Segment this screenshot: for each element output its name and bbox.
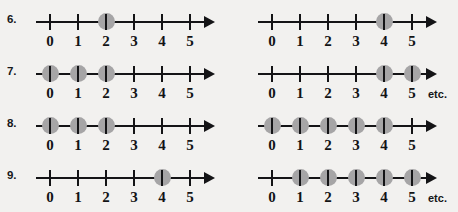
tick-mark bbox=[133, 66, 135, 82]
arrow-right-icon bbox=[426, 16, 437, 28]
tick-label: 2 bbox=[317, 33, 339, 50]
number-line-right: 012345etc. bbox=[258, 166, 450, 212]
tick-label: 4 bbox=[373, 137, 395, 154]
tick-mark bbox=[411, 66, 413, 82]
tick-label: 0 bbox=[261, 137, 283, 154]
tick-mark bbox=[355, 170, 357, 186]
number-line-right: 012345etc. bbox=[258, 62, 450, 110]
tick-mark bbox=[189, 14, 191, 30]
tick-label: 5 bbox=[179, 33, 201, 50]
tick-label: 2 bbox=[317, 85, 339, 102]
tick-mark bbox=[77, 66, 79, 82]
arrow-right-icon bbox=[426, 68, 437, 80]
number-line-left: 012345 bbox=[36, 114, 228, 162]
tick-mark bbox=[327, 118, 329, 134]
tick-mark bbox=[327, 14, 329, 30]
tick-mark bbox=[355, 118, 357, 134]
tick-label: 4 bbox=[151, 189, 173, 206]
tick-mark bbox=[49, 14, 51, 30]
tick-label: 2 bbox=[317, 137, 339, 154]
tick-label: 4 bbox=[373, 33, 395, 50]
etc-label: etc. bbox=[428, 192, 447, 204]
tick-label: 4 bbox=[151, 137, 173, 154]
tick-label: 3 bbox=[345, 137, 367, 154]
tick-label: 1 bbox=[67, 85, 89, 102]
tick-label: 0 bbox=[39, 33, 61, 50]
tick-label: 0 bbox=[39, 189, 61, 206]
arrow-right-icon bbox=[204, 68, 215, 80]
arrow-right-icon bbox=[204, 172, 215, 184]
tick-label: 1 bbox=[289, 137, 311, 154]
tick-label: 5 bbox=[179, 189, 201, 206]
problem-row: 6.012345012345 bbox=[0, 10, 458, 63]
problem-row: 8.012345012345 bbox=[0, 114, 458, 167]
axis-line bbox=[258, 21, 430, 23]
tick-mark bbox=[383, 14, 385, 30]
tick-mark bbox=[189, 118, 191, 134]
tick-label: 2 bbox=[95, 137, 117, 154]
tick-mark bbox=[355, 14, 357, 30]
tick-label: 1 bbox=[67, 137, 89, 154]
tick-mark bbox=[77, 118, 79, 134]
tick-label: 3 bbox=[123, 137, 145, 154]
tick-label: 3 bbox=[345, 85, 367, 102]
tick-mark bbox=[105, 66, 107, 82]
tick-mark bbox=[105, 14, 107, 30]
tick-mark bbox=[133, 118, 135, 134]
tick-label: 2 bbox=[95, 33, 117, 50]
tick-label: 2 bbox=[95, 85, 117, 102]
tick-mark bbox=[49, 170, 51, 186]
tick-label: 3 bbox=[123, 33, 145, 50]
tick-label: 3 bbox=[345, 33, 367, 50]
tick-label: 1 bbox=[289, 33, 311, 50]
arrow-right-icon bbox=[204, 16, 215, 28]
tick-label: 0 bbox=[261, 85, 283, 102]
tick-mark bbox=[189, 66, 191, 82]
tick-label: 1 bbox=[67, 33, 89, 50]
tick-mark bbox=[327, 66, 329, 82]
tick-mark bbox=[49, 66, 51, 82]
tick-label: 0 bbox=[39, 137, 61, 154]
tick-label: 5 bbox=[179, 137, 201, 154]
tick-mark bbox=[271, 118, 273, 134]
tick-label: 5 bbox=[401, 33, 423, 50]
tick-mark bbox=[299, 170, 301, 186]
axis-line bbox=[258, 125, 430, 127]
tick-label: 2 bbox=[317, 189, 339, 206]
tick-mark bbox=[271, 170, 273, 186]
tick-label: 4 bbox=[373, 85, 395, 102]
problem-row: 7.012345012345etc. bbox=[0, 62, 458, 115]
tick-label: 4 bbox=[151, 85, 173, 102]
tick-mark bbox=[77, 14, 79, 30]
problem-row: 9.012345012345etc. bbox=[0, 166, 458, 212]
tick-mark bbox=[271, 14, 273, 30]
tick-mark bbox=[49, 118, 51, 134]
tick-mark bbox=[411, 14, 413, 30]
problem-number-label: 9. bbox=[7, 169, 29, 181]
tick-mark bbox=[299, 66, 301, 82]
tick-label: 2 bbox=[95, 189, 117, 206]
tick-mark bbox=[299, 14, 301, 30]
tick-label: 0 bbox=[39, 85, 61, 102]
tick-label: 3 bbox=[345, 189, 367, 206]
tick-label: 0 bbox=[261, 189, 283, 206]
number-line-worksheet: 6.0123450123457.012345012345etc.8.012345… bbox=[0, 0, 458, 212]
tick-label: 4 bbox=[373, 189, 395, 206]
arrow-right-icon bbox=[204, 120, 215, 132]
arrow-right-icon bbox=[426, 120, 437, 132]
tick-mark bbox=[411, 170, 413, 186]
tick-label: 4 bbox=[151, 33, 173, 50]
tick-mark bbox=[161, 170, 163, 186]
number-line-right: 012345 bbox=[258, 10, 450, 58]
tick-mark bbox=[383, 118, 385, 134]
tick-mark bbox=[271, 66, 273, 82]
problem-number-label: 7. bbox=[7, 65, 29, 77]
tick-mark bbox=[105, 170, 107, 186]
tick-mark bbox=[161, 14, 163, 30]
tick-mark bbox=[189, 170, 191, 186]
tick-mark bbox=[383, 170, 385, 186]
tick-label: 1 bbox=[289, 189, 311, 206]
tick-mark bbox=[161, 66, 163, 82]
axis-line bbox=[36, 73, 208, 75]
tick-label: 0 bbox=[261, 33, 283, 50]
